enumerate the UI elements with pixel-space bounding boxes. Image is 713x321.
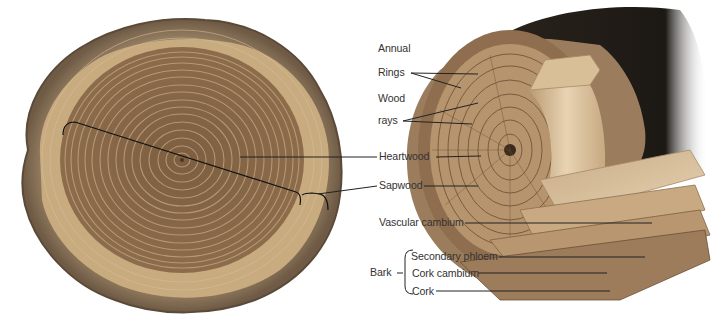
label-cork-cambium: Cork cambium bbox=[412, 267, 479, 280]
label-cork: Cork bbox=[412, 285, 434, 298]
label-heartwood: Heartwood bbox=[379, 150, 429, 163]
trunk-slice bbox=[22, 19, 341, 312]
wood-anatomy-illustration bbox=[0, 0, 713, 321]
label-bark: Bark bbox=[370, 266, 391, 279]
label-sapwood: Sapwood bbox=[379, 179, 422, 192]
label-annual-rings-1: Annual bbox=[378, 42, 410, 55]
label-secondary-phloem: Secondary phloem bbox=[411, 250, 498, 263]
label-wood-rays-1: Wood bbox=[378, 92, 405, 105]
label-wood-rays-2: rays bbox=[378, 114, 398, 127]
label-vascular-cambium: Vascular cambium bbox=[379, 216, 464, 229]
label-annual-rings-2: Rings bbox=[378, 66, 405, 79]
diagram-stage: Annual Rings Wood rays Heartwood Sapwood… bbox=[0, 0, 713, 321]
